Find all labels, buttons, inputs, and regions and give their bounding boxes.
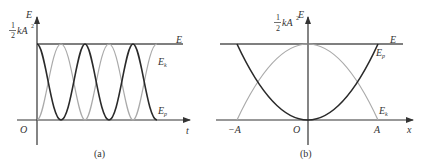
origin-label: O	[293, 124, 300, 135]
energy-level-kA: kA	[282, 17, 293, 28]
energy-level-exp: 2	[31, 23, 34, 29]
frac-den: 2	[11, 31, 15, 40]
energy-diagram: E 1 2 kA 2 E Ek Ep O t (a) E 1 2 kA 2 E …	[0, 0, 421, 167]
frac-num: 1	[276, 13, 280, 22]
caption-b: (b)	[300, 148, 312, 160]
caption-a: (a)	[94, 148, 105, 160]
neg-amplitude-label: −A	[228, 124, 242, 135]
origin-label: O	[20, 124, 27, 135]
energy-level-kA: kA	[17, 25, 28, 36]
pos-amplitude-label: A	[373, 124, 381, 135]
kinetic-label: Ek	[378, 105, 388, 117]
panel-b: E 1 2 kA 2 E Ep Ek −A O A x (b)	[216, 9, 413, 160]
total-energy-label: E	[175, 34, 182, 45]
potential-label: Ep	[375, 47, 385, 59]
energy-level-exp: 2	[296, 15, 299, 21]
x-axis-label: t	[186, 125, 189, 136]
total-energy-label: E	[389, 34, 396, 45]
frac-num: 1	[11, 21, 15, 30]
potential-label: Ep	[157, 105, 167, 117]
panel-a: E 1 2 kA 2 E Ek Ep O t (a)	[9, 9, 190, 160]
y-axis-label: E	[25, 9, 32, 20]
kinetic-label: Ek	[157, 56, 167, 68]
frac-den: 2	[276, 24, 280, 33]
x-axis-label: x	[406, 124, 412, 135]
